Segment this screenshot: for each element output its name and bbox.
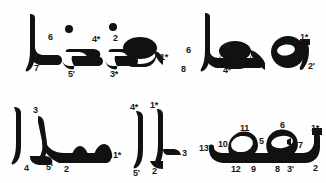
stroke-label: 3* xyxy=(280,48,287,56)
stroke-label: 5' xyxy=(46,163,53,172)
panel-top-right: 6 7 8 5 4* 3* 1* 2' xyxy=(163,0,326,92)
stroke-label: 4* xyxy=(276,139,283,147)
stroke-label: 4 xyxy=(24,164,29,173)
stroke-label: 6 xyxy=(186,46,191,55)
stroke-label: 6 xyxy=(280,121,285,130)
stroke-label: 5 xyxy=(225,42,230,51)
diacritic-dot xyxy=(65,25,73,33)
stroke-label: 7 xyxy=(298,141,303,150)
stroke-label: 8 xyxy=(181,65,186,74)
stroke-label: 7 xyxy=(207,55,212,64)
stroke-label: 5' xyxy=(68,70,75,79)
stroke-label: 3' xyxy=(287,165,294,174)
glyph-bihim xyxy=(163,91,326,183)
stroke-label: 2 xyxy=(313,164,318,173)
stroke-label: 4* xyxy=(92,35,100,44)
stroke-label: 4* xyxy=(130,103,138,112)
stroke-label: 1* xyxy=(113,151,121,160)
stroke-label: 5' xyxy=(133,169,140,178)
stroke-label: 5 xyxy=(259,137,264,146)
stroke-label: 1* xyxy=(300,33,308,42)
stroke-label: 8 xyxy=(275,165,280,174)
panel-bottom-left: 3 4 5' 2 1* 4* 1* 5' 2 xyxy=(0,91,163,183)
diacritic-dot xyxy=(109,23,117,31)
stroke-label: 1* xyxy=(311,124,319,133)
stroke-label: 2 xyxy=(64,165,69,174)
stroke-label: 10 xyxy=(218,140,228,149)
stroke-label: 7 xyxy=(34,64,39,73)
panel-bottom-right: 3 13' 10 11 12 9 5 6 4* 7 8 3' 1* 2 xyxy=(163,91,326,183)
stroke-label: 9 xyxy=(251,165,256,174)
stroke-label: 13' xyxy=(199,144,211,153)
stroke-label: 6 xyxy=(48,33,53,42)
stroke-label: 2' xyxy=(308,62,315,71)
stroke-label: 11 xyxy=(240,124,249,133)
stroke-label: 3 xyxy=(33,106,38,115)
stroke-label: 4* xyxy=(223,66,231,75)
stroke-label: 3* xyxy=(110,70,118,79)
stroke-label: 1* xyxy=(150,101,158,110)
stroke-label: 3 xyxy=(182,149,187,158)
stroke-label: 2 xyxy=(152,167,157,176)
glyph-manzil xyxy=(0,0,163,92)
stroke-label: 12 xyxy=(231,165,241,174)
stroke-label: 2 xyxy=(113,34,118,43)
panel-top-left: 6 7 4* 5' 2 3* 1* xyxy=(0,0,163,92)
calligraphy-figure: 6 7 4* 5' 2 3* 1* 6 7 8 5 4* xyxy=(0,0,326,183)
